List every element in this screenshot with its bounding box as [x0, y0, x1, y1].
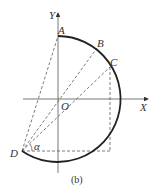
angle-alpha-label: α: [34, 140, 40, 152]
point-a-label: A: [57, 24, 65, 36]
geometry-diagram: Y X O A B C D α (b): [0, 0, 161, 191]
angle-alpha-arc: [30, 144, 32, 151]
y-axis-label: Y: [49, 9, 57, 21]
figure-caption: (b): [71, 174, 83, 186]
line-DB: [22, 48, 97, 151]
point-c-label: C: [110, 56, 118, 68]
point-d-label: D: [9, 147, 18, 159]
x-axis-label: X: [139, 101, 148, 113]
line-DA: [22, 36, 58, 151]
origin-label: O: [61, 100, 69, 112]
point-b-label: B: [97, 37, 104, 49]
